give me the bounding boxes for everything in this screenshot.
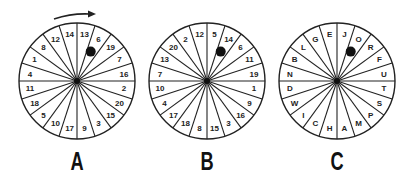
sector-label: 12 — [195, 30, 204, 39]
sector-label: 13 — [160, 55, 169, 64]
sector-label: 5 — [41, 111, 46, 120]
sector-label: R — [368, 43, 374, 52]
sector-label: 13 — [80, 30, 89, 39]
sector-label: 2 — [122, 84, 127, 93]
sector-label: 12 — [51, 35, 60, 44]
sector-label: I — [302, 111, 304, 120]
wheel-a: 1361971622015391710518114181214 — [19, 23, 135, 139]
sector-label: F — [377, 55, 382, 64]
sector-label: 7 — [117, 55, 122, 64]
rotation-arrow-icon — [54, 11, 96, 20]
sector-label: 8 — [197, 124, 202, 133]
sector-label: B — [292, 55, 298, 64]
sector-label: 5 — [212, 30, 217, 39]
sector-label: G — [312, 35, 318, 44]
sector-label: J — [342, 30, 346, 39]
sector-label: 11 — [245, 55, 254, 64]
sector-label: 10 — [156, 84, 165, 93]
sector-label: N — [287, 70, 293, 79]
sector-label: 15 — [210, 124, 219, 133]
sector-label: 4 — [162, 99, 167, 108]
sector-label: 4 — [28, 70, 33, 79]
sector-label: 6 — [238, 43, 243, 52]
sector-label: C — [313, 119, 319, 128]
sector-label: 19 — [250, 70, 259, 79]
sector-label: 17 — [169, 111, 178, 120]
sector-label: 17 — [65, 124, 74, 133]
sector-label: 10 — [51, 119, 60, 128]
sector-label: U — [381, 70, 387, 79]
wheel-hub — [74, 78, 80, 84]
marker-dot-icon — [86, 47, 96, 57]
sector-label: 1 — [32, 55, 37, 64]
sector-label: 20 — [169, 43, 178, 52]
sector-label: 18 — [181, 119, 190, 128]
wheel-b-label: B — [193, 146, 221, 177]
sector-label: 11 — [26, 84, 35, 93]
sector-label: L — [301, 43, 306, 52]
sector-label: D — [287, 84, 293, 93]
sector-label: 18 — [30, 99, 39, 108]
sector-label: T — [382, 84, 387, 93]
sector-label: A — [342, 124, 348, 133]
sector-label: 8 — [41, 43, 46, 52]
sector-label: P — [368, 111, 374, 120]
sector-label: 9 — [82, 124, 87, 133]
marker-dot-icon — [346, 47, 356, 57]
sector-label: M — [355, 119, 362, 128]
sector-label: 6 — [96, 35, 101, 44]
sector-label: W — [291, 99, 299, 108]
sector-label: S — [377, 99, 383, 108]
sector-label: H — [327, 124, 333, 133]
sector-label: 3 — [226, 119, 231, 128]
wheel-hub — [334, 78, 340, 84]
sector-label: 1 — [252, 84, 257, 93]
sector-label: 7 — [158, 70, 163, 79]
wheel-c-label: C — [323, 146, 351, 177]
sector-label: 20 — [115, 99, 124, 108]
sector-label: 14 — [65, 30, 74, 39]
wheel-hub — [204, 78, 210, 84]
sector-label: 14 — [224, 35, 233, 44]
marker-dot-icon — [216, 47, 226, 57]
sector-label: 15 — [106, 111, 115, 120]
sector-label: E — [327, 30, 333, 39]
wheel-b: 5146111919163158181741071320212 — [149, 23, 265, 139]
sector-label: 19 — [106, 43, 115, 52]
sector-label: 3 — [96, 119, 101, 128]
sector-label: 16 — [236, 111, 245, 120]
sector-label: 2 — [183, 35, 188, 44]
wheel-c: JORFUTSPMAHCIWDNBLGE — [279, 23, 395, 139]
sector-label: O — [355, 35, 361, 44]
wheel-a-label: A — [63, 146, 91, 177]
code-wheel-diagram: 1361971622015391710518114181214 51461119… — [0, 0, 412, 182]
sector-label: 9 — [247, 99, 252, 108]
sector-label: 16 — [120, 70, 129, 79]
